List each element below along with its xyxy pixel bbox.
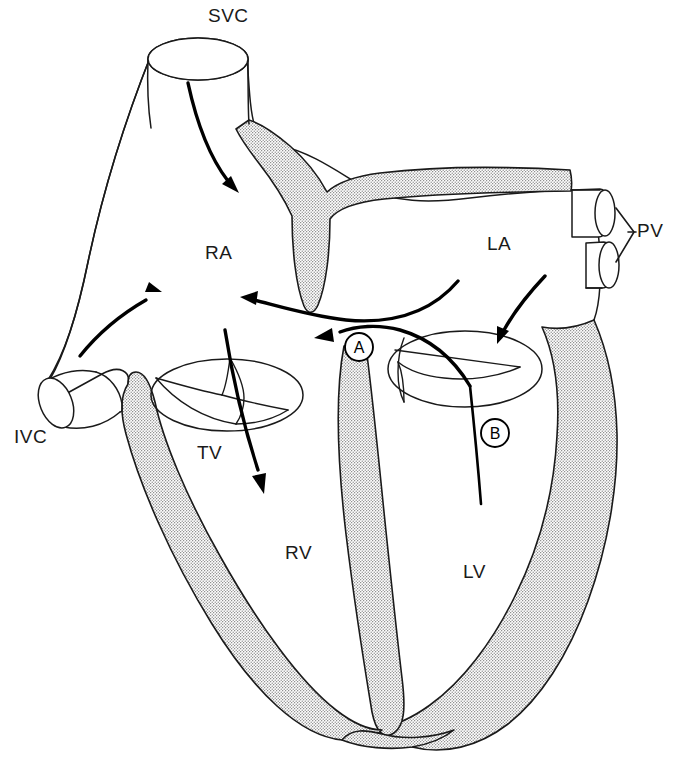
label-pv: PV [637, 220, 663, 241]
arrow-la-across-septum-head [240, 291, 258, 305]
heart-diagram-root: A B SVC IVC RA LA RV LV TV PV [0, 0, 678, 760]
svc-tube-body-right [248, 59, 249, 124]
arrow-catheter-a-head [314, 328, 334, 342]
tricuspid-leaflet-2 [156, 378, 222, 395]
mitral-anterior-leaflet [395, 350, 520, 367]
myocardium-group [122, 120, 617, 750]
marker-label-b: B [490, 425, 501, 442]
lv-free-wall [378, 320, 617, 750]
arrow-ra-through-tv-head [252, 473, 266, 494]
label-ra: RA [205, 242, 232, 263]
heart-anatomy-illustration: A B SVC IVC RA LA RV LV TV PV [0, 0, 678, 760]
label-svc: SVC [208, 5, 249, 26]
arrow-la-to-mitral-head [497, 326, 509, 344]
marker-label-a: A [354, 339, 365, 356]
right-heart-silhouette [41, 55, 151, 407]
arrow-la-across-septum-to-ra [254, 281, 458, 321]
svc-lumen-opening [148, 38, 248, 80]
arrow-la-to-mitral-valve [504, 276, 545, 330]
tricuspid-leaflet-1 [222, 358, 230, 395]
pv-bracket [616, 208, 634, 262]
interatrial-septum [236, 120, 572, 312]
catheter-b-line [470, 386, 481, 504]
label-la: LA [487, 233, 511, 254]
arrow-ivc-into-ra-head [145, 282, 162, 292]
arrow-svc-into-ra [188, 83, 228, 181]
label-lv: LV [463, 561, 486, 582]
label-rv: RV [285, 542, 312, 563]
pv-lumen-lower [599, 242, 619, 288]
ivc-ra-junction [96, 372, 122, 412]
label-ivc: IVC [14, 426, 47, 447]
pv-lumen-upper [595, 190, 615, 236]
label-tv: TV [197, 442, 222, 463]
catheter-group [470, 386, 481, 504]
interventricular-septum [338, 345, 404, 736]
tricuspid-leaflet-3 [222, 395, 288, 410]
mitral-valve-annulus [388, 331, 542, 407]
